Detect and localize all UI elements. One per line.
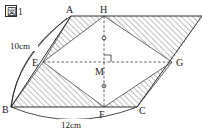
vertex-label-H: H — [100, 4, 107, 15]
figure-caption: 図 1 — [6, 6, 24, 18]
vertex-label-M: M — [95, 66, 104, 77]
hatched-regions-group — [11, 16, 202, 107]
vertex-label-B: B — [2, 104, 9, 115]
hatched-region-triangle-BEF — [11, 62, 104, 107]
vertex-label-E: E — [32, 57, 38, 68]
hatched-region-HDG — [104, 16, 202, 62]
dimension-label-BC: 12cm — [61, 120, 81, 130]
geometry-figure-svg: 10cm 12cm A H E M G B F C 図 1 — [0, 0, 202, 130]
vertex-label-C: C — [139, 105, 146, 116]
dimension-arc-BC — [11, 107, 137, 120]
right-angle-mark-at-M — [104, 55, 111, 62]
vertex-label-G: G — [176, 57, 183, 68]
dimension-label-BA: 10cm — [10, 41, 30, 51]
vertex-label-A: A — [66, 4, 74, 15]
geometry-figure-container: 10cm 12cm A H E M G B F C 図 1 — [0, 0, 202, 130]
figure-caption-number: 1 — [18, 7, 23, 17]
vertex-label-F: F — [99, 109, 105, 120]
figure-caption-kanji: 図 — [7, 7, 17, 17]
